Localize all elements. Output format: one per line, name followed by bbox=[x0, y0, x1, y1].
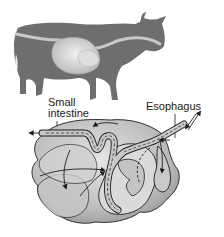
small-intestine-label: Small intestine bbox=[48, 97, 98, 119]
ruminant-digestion-diagram bbox=[0, 0, 224, 237]
esophagus-label: Esophagus bbox=[146, 101, 201, 112]
small-intestine-label-line2: intestine bbox=[48, 108, 98, 119]
arrow-regurgitate-icon bbox=[188, 112, 200, 130]
